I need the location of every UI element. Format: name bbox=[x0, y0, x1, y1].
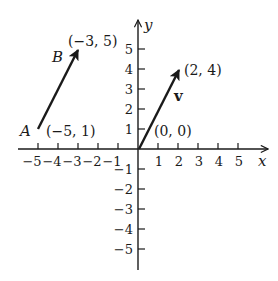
point-b-coords: (−3, 5) bbox=[68, 33, 117, 49]
y-tick-label: −3 bbox=[114, 202, 133, 217]
point-head-v-coords: (2, 4) bbox=[184, 62, 222, 78]
y-tick-label: 2 bbox=[125, 102, 133, 117]
x-tick-label: 4 bbox=[215, 154, 223, 169]
y-tick-label: 3 bbox=[125, 82, 133, 97]
coordinate-plane: −5 −4 −3 −2 −1 1 2 3 4 5 5 4 3 2 1 −1 −2… bbox=[0, 0, 278, 281]
x-axis-label: x bbox=[258, 152, 267, 170]
y-tick-label: 4 bbox=[125, 62, 133, 77]
y-tick-label: 5 bbox=[125, 42, 133, 57]
vector-v-label: v bbox=[173, 87, 184, 105]
point-b-label: B bbox=[51, 48, 63, 66]
x-tick-label: −5 bbox=[22, 154, 41, 169]
x-tick-label: −4 bbox=[42, 154, 61, 169]
x-tick-label: 3 bbox=[195, 154, 203, 169]
origin-coords: (0, 0) bbox=[154, 123, 192, 139]
y-tick-label: −2 bbox=[114, 182, 133, 197]
y-tick-label: −1 bbox=[114, 162, 133, 177]
y-tick-label: −4 bbox=[114, 222, 133, 237]
y-axis-label: y bbox=[143, 16, 153, 34]
x-tick-label: 1 bbox=[155, 154, 163, 169]
x-tick-label: −3 bbox=[62, 154, 81, 169]
point-a-label: A bbox=[18, 122, 31, 140]
x-tick-label: −2 bbox=[82, 154, 101, 169]
point-a-coords: (−5, 1) bbox=[46, 123, 95, 139]
y-tick-label: 1 bbox=[125, 122, 133, 137]
x-tick-label: 5 bbox=[235, 154, 243, 169]
y-tick-label: −5 bbox=[114, 242, 133, 257]
x-tick-label: 2 bbox=[175, 154, 183, 169]
